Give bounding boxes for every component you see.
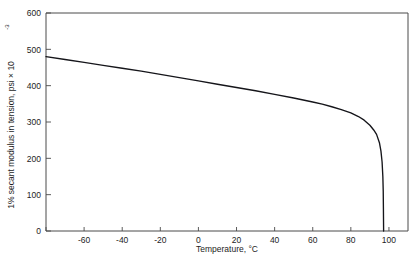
y-tick-label: 500 [27,45,41,55]
x-tick-label: -20 [154,235,167,245]
x-tick-label: 80 [346,235,356,245]
x-tick-label: -60 [78,235,91,245]
x-tick-label: 60 [308,235,318,245]
y-tick-label: 300 [27,117,41,127]
x-axis-title: Temperature, °C [196,244,258,254]
chart-figure: -60-40-20020406080100 010020030040050060… [0,0,418,274]
y-axis-title-text: 1% secant modulus in tension, psi × 10 [6,61,16,209]
y-tick-label: 100 [27,190,41,200]
y-tick-label: 0 [36,226,41,236]
y-axis-title-exponent-group: -3 [4,24,10,30]
chart-background [0,0,418,274]
y-tick-label: 400 [27,81,41,91]
x-tick-label: 40 [270,235,280,245]
x-tick-label: -40 [116,235,129,245]
y-axis-exponent: -3 [4,24,10,30]
y-tick-label: 600 [27,8,41,18]
y-tick-label: 200 [27,154,41,164]
y-axis-title: 1% secant modulus in tension, psi × 10 [6,61,16,209]
x-tick-label: 100 [382,235,396,245]
